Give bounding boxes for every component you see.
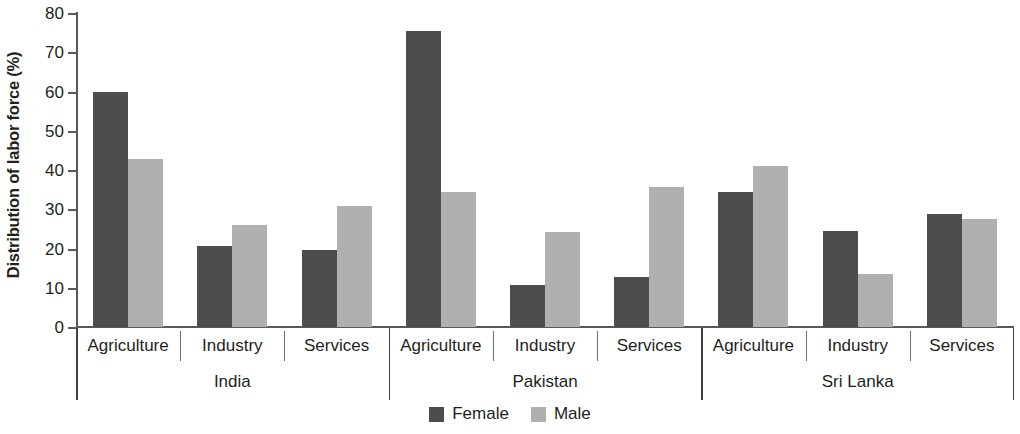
country-group-pakistan	[389, 13, 702, 327]
x-axis-country-label: Sri Lanka	[701, 364, 1014, 400]
x-country-cell-sri-lanka: AgricultureIndustryServices	[701, 328, 1014, 364]
x-country-name-cell: Pakistan	[389, 364, 702, 400]
y-axis-tick-label: 40	[45, 162, 64, 179]
bar-cell	[910, 13, 1014, 327]
legend-swatch-icon	[429, 407, 444, 422]
bar-male[interactable]	[649, 187, 684, 327]
x-axis-category-label: Industry	[493, 328, 597, 364]
bar-pair	[614, 13, 684, 327]
bar-male[interactable]	[753, 166, 788, 327]
y-axis-tick-label: 70	[45, 44, 64, 61]
y-axis-tick-mark	[68, 209, 76, 211]
country-group-sri-lanka	[701, 13, 1014, 327]
bar-cell	[806, 13, 910, 327]
bar-cell	[701, 13, 805, 327]
bar-cell	[597, 13, 701, 327]
x-axis-category-label: Services	[910, 328, 1014, 364]
y-axis-tick-mark	[68, 327, 76, 329]
bar-pair	[93, 13, 163, 327]
chart-legend: FemaleMale	[0, 404, 1020, 424]
y-axis-tick-label: 50	[45, 122, 64, 139]
bar-female[interactable]	[406, 31, 441, 327]
x-country-cell-pakistan: AgricultureIndustryServices	[389, 328, 702, 364]
x-axis-category-row: AgricultureIndustryServicesAgricultureIn…	[76, 328, 1014, 364]
bar-male[interactable]	[858, 274, 893, 327]
x-axis-category-label: Agriculture	[76, 328, 180, 364]
y-axis-tick-mark	[68, 288, 76, 290]
bar-pair	[823, 13, 893, 327]
bar-pair	[927, 13, 997, 327]
x-axis-category-label: Industry	[180, 328, 284, 364]
y-axis-tick-mark	[68, 52, 76, 54]
y-axis-title: Distribution of labor force (%)	[0, 0, 26, 330]
bar-cell	[76, 13, 180, 327]
x-axis-category-label: Agriculture	[389, 328, 493, 364]
bar-female[interactable]	[197, 246, 232, 327]
y-axis-title-text: Distribution of labor force (%)	[4, 52, 23, 279]
bar-male[interactable]	[441, 192, 476, 327]
y-axis-tick-mark	[68, 170, 76, 172]
y-axis-tick-label: 10	[45, 279, 64, 296]
bar-female[interactable]	[302, 250, 337, 327]
x-axis-country-label: India	[76, 364, 389, 400]
y-axis-tick-label: 0	[55, 319, 64, 336]
country-group-india	[76, 13, 389, 327]
x-axis-category-label: Industry	[806, 328, 910, 364]
bar-pair	[406, 13, 476, 327]
bar-female[interactable]	[823, 231, 858, 327]
bar-cell	[284, 13, 388, 327]
bar-male[interactable]	[232, 225, 267, 327]
y-axis-tick-label: 30	[45, 201, 64, 218]
x-axis-category-label: Services	[284, 328, 388, 364]
x-country-name-cell: Sri Lanka	[701, 364, 1014, 400]
y-axis-tick-label: 60	[45, 83, 64, 100]
x-axis-country-label: Pakistan	[389, 364, 702, 400]
bar-male[interactable]	[128, 159, 163, 327]
bar-pair	[197, 13, 267, 327]
y-axis-tick-label: 80	[45, 5, 64, 22]
plot-area: 01020304050607080	[76, 13, 1014, 327]
legend-swatch-icon	[531, 407, 546, 422]
bar-female[interactable]	[93, 92, 128, 327]
bar-cell	[180, 13, 284, 327]
bar-female[interactable]	[927, 214, 962, 327]
x-axis-category-label: Agriculture	[701, 328, 805, 364]
legend-label: Male	[554, 404, 591, 424]
y-axis-tick-label: 20	[45, 240, 64, 257]
legend-item-male[interactable]: Male	[531, 404, 591, 424]
x-country-cell-india: AgricultureIndustryServices	[76, 328, 389, 364]
legend-label: Female	[452, 404, 509, 424]
bar-pair	[718, 13, 788, 327]
bar-female[interactable]	[614, 277, 649, 327]
y-axis-tick-mark	[68, 92, 76, 94]
bar-cell	[493, 13, 597, 327]
bar-chart: Distribution of labor force (%) 01020304…	[0, 0, 1020, 434]
bar-male[interactable]	[962, 219, 997, 327]
bar-cell	[389, 13, 493, 327]
bar-female[interactable]	[718, 192, 753, 327]
bar-pair	[302, 13, 372, 327]
y-axis-tick-mark	[68, 249, 76, 251]
x-axis-category-label: Services	[597, 328, 701, 364]
bar-pair	[510, 13, 580, 327]
x-axis-labels: AgricultureIndustryServicesAgricultureIn…	[76, 328, 1014, 400]
x-axis-country-row: IndiaPakistanSri Lanka	[76, 364, 1014, 400]
bar-male[interactable]	[545, 232, 580, 327]
bar-groups	[76, 13, 1014, 327]
bar-male[interactable]	[337, 206, 372, 327]
y-axis-tick-mark	[68, 13, 76, 15]
x-country-name-cell: India	[76, 364, 389, 400]
y-axis-tick-mark	[68, 131, 76, 133]
bar-female[interactable]	[510, 285, 545, 327]
legend-item-female[interactable]: Female	[429, 404, 509, 424]
